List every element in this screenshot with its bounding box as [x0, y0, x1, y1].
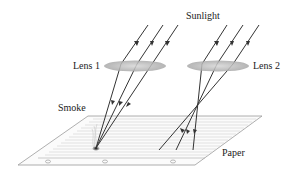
lens-focus-diagram: Sunlight Lens 1 Lens 2 Smoke Paper [0, 0, 296, 175]
label-sunlight: Sunlight [186, 11, 220, 21]
label-lens-2: Lens 2 [253, 61, 280, 71]
lens-1 [104, 61, 166, 72]
label-smoke: Smoke [58, 103, 86, 113]
lens-2 [187, 61, 249, 72]
label-paper: Paper [222, 148, 245, 158]
label-lens-1: Lens 1 [73, 61, 100, 71]
diagram-canvas [0, 0, 296, 175]
